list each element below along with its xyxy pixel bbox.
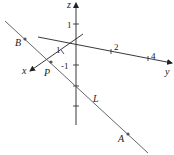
point-P-label: P bbox=[43, 67, 50, 78]
z-tick-label-1: 1 bbox=[67, 20, 72, 30]
x-tick-1 bbox=[61, 50, 64, 54]
point-B-label: B bbox=[15, 37, 21, 48]
point-A bbox=[126, 132, 129, 135]
z-axis-label: z bbox=[66, 0, 71, 10]
point-B bbox=[23, 37, 26, 40]
y-tick-label-4: 4 bbox=[151, 51, 156, 61]
3d-line-diagram: z y x 1 -1 1 2 4 B P A L bbox=[0, 0, 174, 155]
z-tick-label-neg1: -1 bbox=[61, 61, 69, 71]
x-tick-label-1: 1 bbox=[56, 45, 61, 55]
point-P bbox=[49, 60, 52, 63]
x-axis-label: x bbox=[21, 65, 27, 76]
y-axis-label: y bbox=[164, 66, 170, 77]
point-A-label: A bbox=[117, 133, 125, 144]
y-tick-label-2: 2 bbox=[114, 42, 119, 52]
line-L-label: L bbox=[92, 93, 99, 104]
line-L bbox=[5, 21, 148, 153]
